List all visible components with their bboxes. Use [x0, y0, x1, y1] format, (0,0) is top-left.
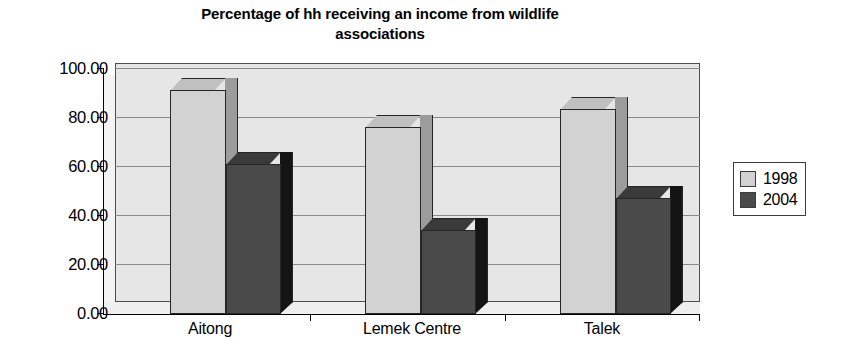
bar-2004-talek[interactable]	[616, 186, 671, 314]
bar-2004-aitong[interactable]	[226, 152, 281, 314]
y-tick-label-100: 100.00	[12, 60, 108, 77]
bar-side-face	[280, 152, 293, 314]
gridline-100	[115, 68, 700, 69]
bar-front-face	[365, 127, 421, 314]
y-tick-label-40: 40.00	[12, 207, 108, 224]
bar-front-face	[560, 109, 616, 314]
y-tick-label-20: 20.00	[12, 256, 108, 273]
legend-label-2004: 2004	[763, 192, 797, 208]
legend-item-2004[interactable]: 2004	[740, 189, 797, 210]
legend-swatch-2004-icon	[740, 192, 756, 208]
bar-side-face	[475, 218, 488, 314]
y-tick-label-0: 0.00	[12, 305, 108, 322]
bar-front-face	[170, 90, 226, 314]
bar-1998-talek[interactable]	[560, 97, 616, 314]
bar-1998-lemek-centre[interactable]	[365, 115, 421, 314]
y-axis-labels: 100.00 80.00 60.00 40.00 20.00 0.00	[12, 0, 108, 348]
legend: 1998 2004	[733, 162, 806, 216]
xtick-right-end	[699, 314, 700, 321]
xtick-aitong-lemek	[310, 314, 311, 321]
legend-item-1998[interactable]: 1998	[740, 168, 797, 189]
y-tick-label-80: 80.00	[12, 109, 108, 126]
x-tick-label-lemek-centre: Lemek Centre	[332, 321, 492, 337]
y-tick-label-60: 60.00	[12, 158, 108, 175]
plot-area	[0, 0, 848, 348]
bar-2004-lemek-centre[interactable]	[421, 218, 476, 314]
bar-1998-aitong[interactable]	[170, 78, 226, 314]
x-tick-label-talek: Talek	[552, 321, 652, 337]
x-tick-label-aitong: Aitong	[160, 321, 260, 337]
bar-front-face	[616, 198, 671, 314]
bar-side-face	[670, 186, 683, 314]
bar-front-face	[421, 230, 476, 314]
bar-front-face	[226, 164, 281, 314]
xtick-lemek-talek	[505, 314, 506, 321]
x-axis-line	[103, 314, 700, 315]
chart-container: Percentage of hh receiving an income fro…	[0, 0, 848, 348]
legend-label-1998: 1998	[763, 171, 797, 187]
legend-swatch-1998-icon	[740, 171, 756, 187]
